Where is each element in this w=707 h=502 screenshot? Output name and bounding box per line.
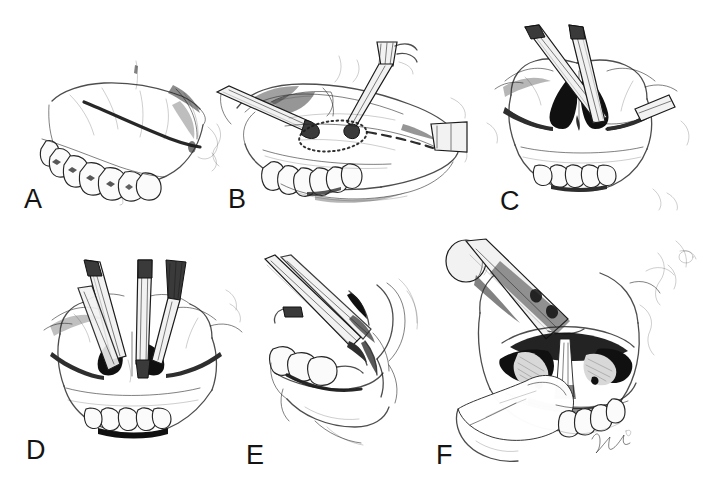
panel-label-d: D	[26, 437, 46, 464]
finger-f	[456, 375, 573, 461]
lip-and-chin-e	[281, 389, 389, 445]
artist-signature-f	[592, 430, 631, 453]
panel-label-c: C	[500, 188, 520, 215]
maxillary-teeth-a	[40, 139, 164, 201]
panel-d-artwork	[40, 260, 245, 450]
mallet-d	[152, 260, 186, 364]
soft-tissue-wisps-f	[640, 241, 696, 355]
surgical-figure: A	[0, 0, 707, 502]
panel-b-artwork	[215, 40, 470, 210]
osteotomy-cut-c	[503, 107, 657, 131]
panel-a-artwork	[40, 55, 225, 205]
panel-f-artwork	[440, 235, 695, 470]
pterygomaxillary-fissure-e	[361, 333, 389, 375]
maxillary-teeth-d	[66, 388, 200, 439]
panel-label-f: F	[436, 442, 453, 469]
soft-tissue-wisps-d	[226, 290, 241, 322]
panel-label-a: A	[24, 186, 42, 213]
panel-b	[215, 40, 470, 210]
panel-a	[40, 55, 225, 205]
panel-label-b: B	[228, 186, 246, 213]
panel-d	[40, 260, 245, 450]
rowe-forceps-f	[446, 239, 584, 339]
saw-instruments-c	[525, 25, 675, 124]
panel-label-e: E	[246, 442, 264, 469]
panel-c-artwork	[485, 25, 695, 210]
panel-f	[440, 235, 695, 470]
panel-c	[485, 25, 695, 210]
soft-tissue-e	[377, 279, 418, 403]
maxillary-molars-e	[270, 347, 363, 386]
maxillary-teeth-c	[521, 147, 643, 192]
panel-e	[265, 255, 430, 450]
tuberosity-retractor-b	[431, 122, 467, 152]
straight-osteotome-d	[136, 260, 152, 378]
maxillary-teeth-b	[262, 150, 391, 196]
panel-e-artwork	[265, 255, 430, 450]
bur-handpiece-b	[344, 42, 417, 139]
